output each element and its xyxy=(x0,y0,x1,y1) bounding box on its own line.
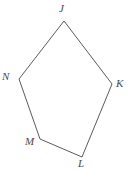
vertex-label-L: L xyxy=(78,158,84,169)
polygon-drawing xyxy=(0,0,129,170)
vertex-label-J: J xyxy=(59,3,64,14)
vertex-label-N: N xyxy=(2,71,9,82)
vertex-label-M: M xyxy=(25,136,34,147)
vertex-label-K: K xyxy=(116,78,123,89)
geometry-figure: J K L M N xyxy=(0,0,129,170)
